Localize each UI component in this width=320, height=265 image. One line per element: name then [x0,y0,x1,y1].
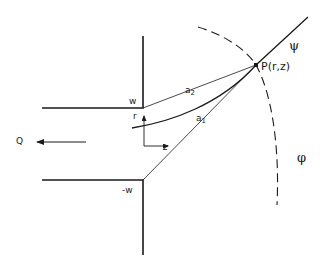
distance-line-a2 [143,65,256,108]
upper-wall [42,36,143,108]
label-psi: ψ [289,39,299,52]
label-point-p: P(r,z) [261,61,290,72]
label-z: z [163,143,168,152]
label-a1: a1 [196,114,206,125]
diagram-svg [0,0,320,265]
label-r: r [133,112,137,121]
label-a2: a2 [185,86,195,97]
label-w: w [129,97,136,106]
label-a2-sub: 2 [191,89,195,97]
diagram-canvas: w -w Q r z a2 a1 P(r,z) ψ φ [0,0,320,265]
label-minus-w: -w [122,186,133,195]
label-a1-sub: 1 [202,117,206,125]
point-p-marker [254,63,258,67]
label-q: Q [16,137,23,146]
label-phi: φ [297,151,306,164]
equipotential-phi [198,27,278,205]
